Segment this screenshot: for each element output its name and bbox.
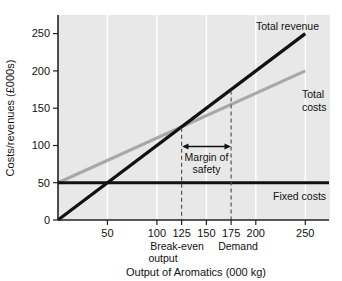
x-tick-label-100: 100 <box>148 227 166 239</box>
y-tick-label-150: 150 <box>32 102 50 114</box>
total-costs-label-line1: Total <box>302 88 324 100</box>
y-tick-label-0: 0 <box>44 214 50 226</box>
chart-canvas: 0 50 100 150 200 250 50 100 125 150 175 … <box>0 0 342 281</box>
margin-of-safety-label-line2: safety <box>192 163 221 175</box>
total-revenue-label: Total revenue <box>256 20 319 32</box>
x-tick-label-50: 50 <box>101 227 113 239</box>
breakeven-output-label-line2: output <box>148 252 177 264</box>
demand-label: Demand <box>218 240 258 252</box>
x-tick-label-250: 250 <box>296 227 314 239</box>
x-tick-label-200: 200 <box>247 227 265 239</box>
x-axis-title: Output of Aromatics (000 kg) <box>126 266 266 278</box>
y-tick-label-200: 200 <box>32 65 50 77</box>
x-tick-label-125: 125 <box>172 227 190 239</box>
y-axis-title: Costs/revenues (£000s) <box>4 60 16 177</box>
margin-of-safety-label-line1: Margin of <box>185 151 229 163</box>
x-tick-label-175: 175 <box>222 227 240 239</box>
breakeven-output-label-line1: Break-even <box>150 240 204 252</box>
y-tick-label-50: 50 <box>38 177 50 189</box>
x-tick-label-150: 150 <box>197 227 215 239</box>
y-tick-label-250: 250 <box>32 27 50 39</box>
total-costs-label-line2: costs <box>302 101 327 113</box>
y-tick-label-100: 100 <box>32 139 50 151</box>
breakeven-chart: 0 50 100 150 200 250 50 100 125 150 175 … <box>0 0 342 281</box>
fixed-costs-label: Fixed costs <box>273 190 326 202</box>
